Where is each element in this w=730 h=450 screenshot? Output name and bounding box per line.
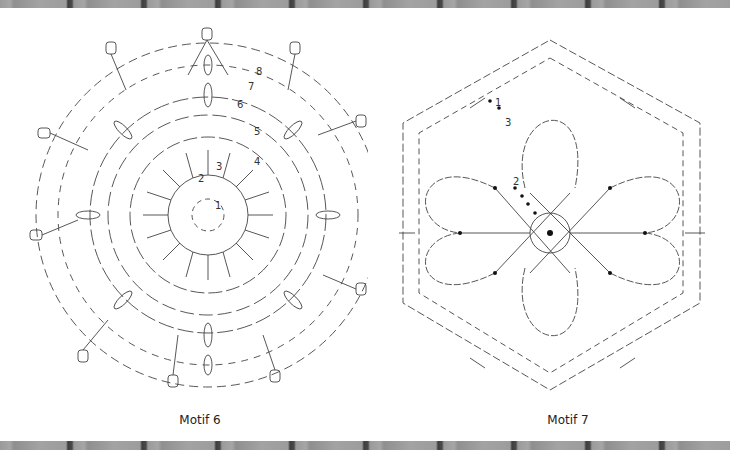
svg-text:2: 2 [198,173,204,184]
svg-text:1: 1 [495,97,501,108]
svg-text:3: 3 [216,161,222,172]
motif-6-caption: Motif 6 [140,413,260,427]
svg-text:8: 8 [256,66,262,77]
svg-text:3: 3 [505,117,511,128]
motif-6-diagram: 1 2 3 4 5 6 7 8 [8,20,368,410]
motif-7-diagram: 1 2 3 [395,28,725,408]
wood-border-bottom [0,441,730,450]
svg-text:7: 7 [248,81,254,92]
svg-text:2: 2 [513,176,519,187]
svg-text:1: 1 [215,200,221,211]
svg-text:4: 4 [254,156,260,167]
svg-text:5: 5 [254,126,260,137]
svg-text:6: 6 [237,99,243,110]
wood-border-top [0,0,730,8]
motif-7-caption: Motif 7 [508,413,628,427]
